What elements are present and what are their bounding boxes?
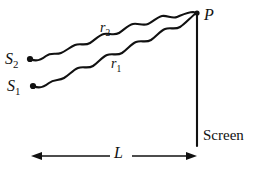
label-ray-1: r1	[111, 57, 121, 74]
label-ray-2: r2	[100, 21, 110, 38]
label-source-2: S2	[5, 51, 18, 70]
wavy-ray-r1-path	[34, 13, 197, 87]
source-1-dot	[30, 83, 36, 89]
label-source-1: S1	[7, 78, 20, 97]
label-source-2-subscript: 2	[13, 58, 18, 70]
label-source-1-base: S	[7, 77, 15, 94]
label-ray-2-subscript: 2	[105, 28, 110, 38]
label-distance-l: L	[114, 145, 123, 161]
arrowhead-left-icon	[31, 152, 42, 160]
label-source-2-base: S	[5, 50, 13, 67]
label-point-p: P	[204, 7, 214, 23]
label-ray-1-subscript: 1	[116, 64, 121, 74]
label-screen: Screen	[203, 128, 244, 143]
diagram-canvas	[0, 0, 262, 173]
label-source-1-subscript: 1	[15, 85, 20, 97]
interference-diagram: S2 S1 r2 r1 P L Screen	[0, 0, 262, 173]
source-2-dot	[27, 56, 33, 62]
arrowhead-right-icon	[186, 152, 197, 160]
wavy-ray-r2-path	[31, 12, 197, 60]
